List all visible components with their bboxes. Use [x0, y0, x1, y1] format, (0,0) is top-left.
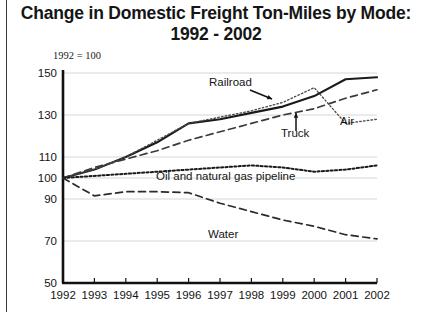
y-tick-label: 70: [44, 235, 57, 247]
y-tick-label: 130: [38, 109, 57, 121]
x-tick-label: 1992: [50, 289, 76, 301]
x-tick-label: 1994: [113, 289, 139, 301]
x-tick-label: 1999: [270, 289, 296, 301]
line-chart-svg: 507090100110130150 199219931994199519961…: [0, 0, 428, 312]
y-tick-label: 90: [44, 193, 57, 205]
x-tick-label: 1995: [144, 289, 170, 301]
data-series-group: [63, 77, 377, 239]
x-tick-label: 1998: [239, 289, 265, 301]
gridlines-group: [63, 73, 377, 241]
y-tick-label: 50: [44, 277, 57, 289]
annotation-label-pipeline: Oil and natural gas pipeline: [156, 170, 295, 182]
x-tick-label: 2000: [301, 289, 327, 301]
y-tick-labels: 507090100110130150: [38, 67, 57, 289]
x-tick-label: 1997: [207, 289, 233, 301]
x-tick-label: 2001: [333, 289, 359, 301]
y-tick-label: 100: [38, 172, 57, 184]
series-line-air: [63, 88, 377, 178]
x-tick-label: 1996: [176, 289, 202, 301]
y-tick-label: 110: [39, 151, 57, 163]
annotation-label-air: Air: [340, 115, 354, 127]
chart-plot-area: 507090100110130150 199219931994199519961…: [0, 0, 428, 312]
x-tick-labels: 1992199319941995199619971998199920002001…: [50, 289, 390, 301]
x-tick-label: 1993: [82, 289, 108, 301]
series-annotations-group: RailroadTruckAirOil and natural gas pipe…: [156, 76, 354, 240]
chart-page: Change in Domestic Freight Ton-Miles by …: [0, 0, 428, 312]
annotation-label-railroad: Railroad: [209, 76, 252, 88]
y-tick-label: 150: [38, 67, 57, 79]
annotation-label-water: Water: [208, 228, 238, 240]
series-line-truck: [63, 90, 377, 178]
x-tick-label: 2002: [364, 289, 390, 301]
